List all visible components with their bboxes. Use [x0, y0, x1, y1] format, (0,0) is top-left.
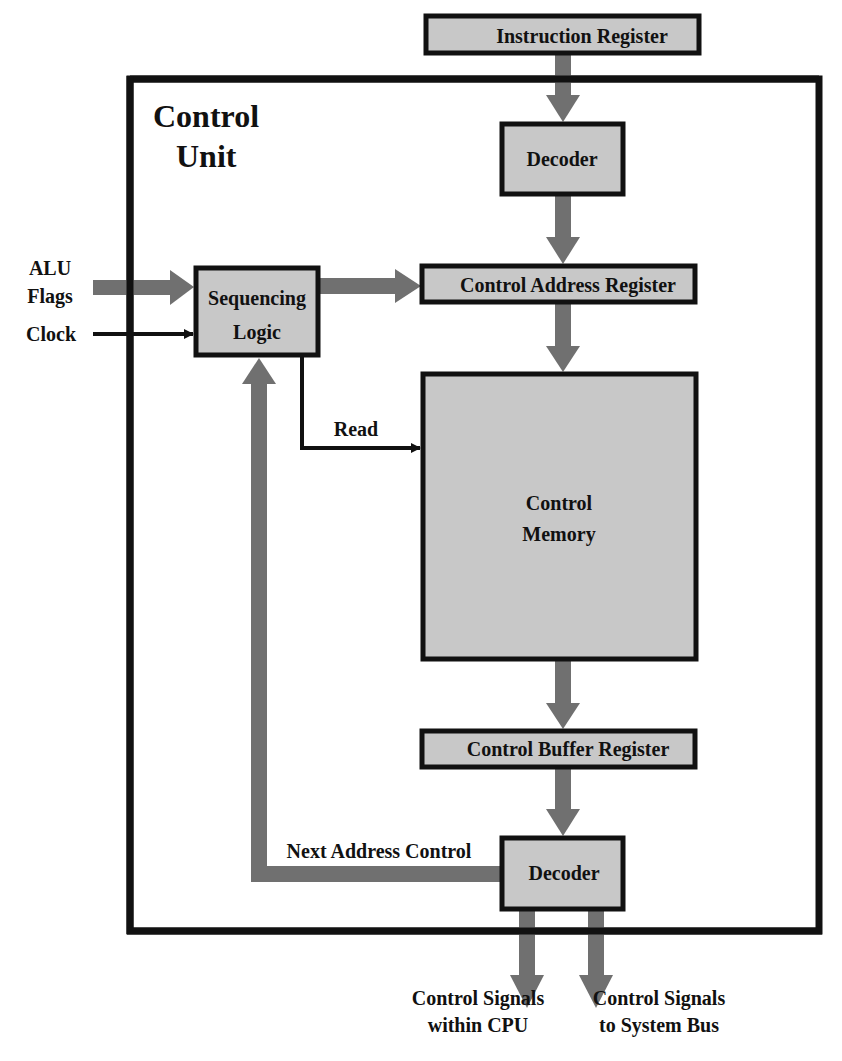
control-address-register-block: Control Address Register: [422, 266, 695, 302]
decoder-top-block: Decoder: [502, 124, 623, 194]
output-system-bus-label-line2: to System Bus: [599, 1014, 719, 1037]
arrow-car-to-memory-icon: [546, 303, 580, 372]
control-memory-label-line2: Memory: [522, 523, 595, 546]
decoder-bottom-block: Decoder: [502, 838, 623, 909]
control-unit-diagram: Control Unit: [0, 0, 842, 1061]
decoder-bottom-label: Decoder: [528, 862, 599, 884]
control-buffer-register-block: Control Buffer Register: [422, 731, 695, 767]
control-address-register-label: Control Address Register: [460, 274, 676, 297]
control-buffer-register-label: Control Buffer Register: [467, 738, 670, 761]
output-within-cpu-label-line1: Control Signals: [412, 987, 545, 1010]
control-unit-title-line2: Unit: [176, 138, 237, 174]
control-memory-label-line1: Control: [526, 492, 593, 514]
instruction-register-block: Instruction Register: [426, 16, 699, 53]
sequencing-logic-block: Sequencing Logic: [196, 268, 318, 355]
read-label: Read: [334, 418, 378, 440]
arrow-ir-to-decoder-icon: [546, 54, 580, 122]
decoder-top-label: Decoder: [526, 148, 597, 170]
control-memory-block: Control Memory: [423, 374, 696, 659]
alu-flags-label-line1: ALU: [29, 257, 71, 279]
arrow-decoder-to-car-icon: [546, 195, 580, 264]
clock-label: Clock: [26, 323, 77, 345]
sequencing-logic-label-line2: Logic: [233, 321, 281, 344]
arrow-seq-to-car-icon: [320, 269, 421, 303]
output-system-bus-label-line1: Control Signals: [593, 987, 726, 1010]
arrow-cbr-to-decoder-icon: [546, 768, 580, 836]
arrow-memory-to-cbr-icon: [546, 660, 580, 729]
alu-flags-label-line2: Flags: [27, 285, 73, 308]
control-unit-title-line1: Control: [153, 98, 259, 134]
output-within-cpu-label-line2: within CPU: [428, 1014, 529, 1036]
sequencing-logic-label-line1: Sequencing: [208, 287, 306, 310]
arrow-alu-flags-icon: [93, 270, 194, 305]
instruction-register-label: Instruction Register: [496, 25, 668, 48]
next-address-control-label: Next Address Control: [287, 840, 472, 862]
